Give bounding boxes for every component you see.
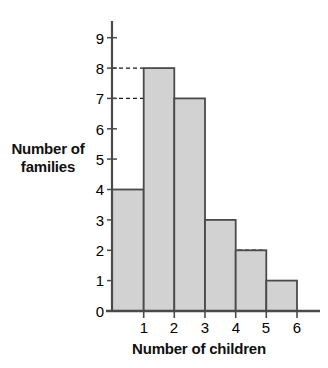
y-tick-label-9: 9 [88, 31, 104, 46]
y-tick-label-4: 4 [88, 182, 104, 197]
x-tick-label-1: 1 [136, 320, 152, 335]
bar-bin-1 [112, 190, 144, 312]
y-axis-title-line1: Number of [11, 140, 84, 157]
x-tick-label-6: 6 [289, 320, 305, 335]
y-axis-title: Number of families [2, 140, 94, 176]
y-tick-label-7: 7 [88, 91, 104, 106]
bar-bin-3 [174, 98, 205, 311]
x-tick-label-2: 2 [166, 320, 182, 335]
y-tick-label-2: 2 [88, 243, 104, 258]
y-tick-label-6: 6 [88, 122, 104, 137]
bar-bin-6 [266, 281, 297, 311]
y-tick-label-3: 3 [88, 213, 104, 228]
bar-bin-5 [236, 250, 267, 311]
x-axis-title: Number of children [104, 340, 294, 357]
y-axis-title-line2: families [21, 158, 75, 175]
y-tick-label-0: 0 [88, 304, 104, 319]
x-tick-label-4: 4 [228, 320, 244, 335]
bar-bin-4 [205, 220, 236, 311]
y-tick-label-1: 1 [88, 273, 104, 288]
x-tick-label-5: 5 [258, 320, 274, 335]
x-tick-label-3: 3 [197, 320, 213, 335]
chart-canvas [0, 0, 328, 368]
histogram-chart: 9 8 7 6 5 4 3 2 1 0 1 2 3 4 5 6 Number o… [0, 0, 328, 368]
y-tick-label-8: 8 [88, 61, 104, 76]
bar-bin-2 [144, 68, 175, 311]
bars-group [112, 68, 297, 311]
